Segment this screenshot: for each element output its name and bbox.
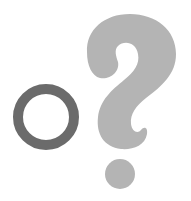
figure-canvas <box>0 0 191 201</box>
figure: Circle and question mark <box>0 0 191 201</box>
question-mark-icon <box>87 14 176 189</box>
ring-icon <box>18 89 74 145</box>
